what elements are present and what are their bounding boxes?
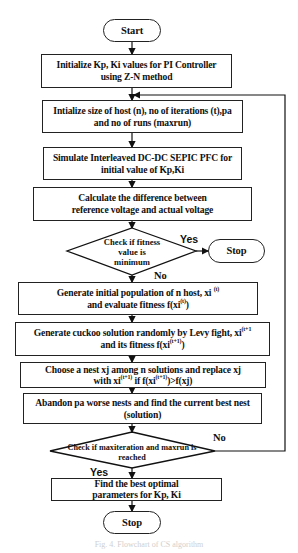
generate-population-line1: Generate initial population of n host, x… xyxy=(57,287,219,299)
generate-population-line2: and evaluate fitness f(xi(t)) xyxy=(87,299,189,311)
generate-cuckoo-line2: and its fitness f(xi(t+1)) xyxy=(101,339,185,351)
step-generate-cuckoo: Generate cuckoo solution randomly by Lev… xyxy=(15,322,270,356)
step-init-kp-ki: Initialize Kp, Ki values for PI Controll… xyxy=(41,54,232,88)
fitness-yes-label: Yes xyxy=(180,233,198,245)
choose-nest-line1: Choose a nest xj among n solutions and r… xyxy=(45,364,241,375)
step-generate-population: Generate initial population of n host, x… xyxy=(18,282,258,315)
step-calculate: Calculate the difference between referen… xyxy=(33,187,252,221)
fitness-no-label: No xyxy=(154,270,167,281)
figure-caption: Fig. 4. Flowchart of CS algorithm xyxy=(0,540,298,549)
start-terminal: Start xyxy=(103,19,161,42)
choose-nest-line2: with xi(t+1) if f(xi(t+1))>f(xj) xyxy=(94,375,193,386)
step-abandon: Abandon pa worse nests and find the curr… xyxy=(23,393,262,424)
step-choose-nest: Choose a nest xj among n solutions and r… xyxy=(20,362,266,388)
max-yes-label: Yes xyxy=(90,466,108,478)
decision-max-label: Check if maxiteration and maxrun is reac… xyxy=(62,440,202,466)
decision-fitness-label: Check if fitness value is minimum xyxy=(100,233,164,271)
max-no-label: No xyxy=(213,432,226,443)
flowchart-canvas: Start Initialize Kp, Ki values for PI Co… xyxy=(0,0,298,553)
step-init-size: Intialize size of host (n), no of iterat… xyxy=(42,100,243,133)
stop-terminal-1: Stop xyxy=(208,239,265,263)
step-find-best: Find the best optimal parameters for Kp,… xyxy=(51,478,222,501)
generate-cuckoo-line1: Generate cuckoo solution randomly by Lev… xyxy=(34,327,252,339)
step-simulate: Simulate Interleaved DC-DC SEPIC PFC for… xyxy=(43,147,242,180)
stop-terminal-2: Stop xyxy=(103,511,161,534)
